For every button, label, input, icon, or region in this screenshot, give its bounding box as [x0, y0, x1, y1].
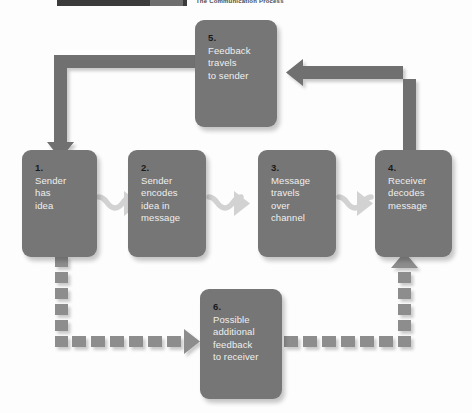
process-step-2[interactable]: 2. Sender encodes idea in message	[128, 150, 206, 257]
process-step-1[interactable]: 1. Sender has idea	[22, 150, 97, 257]
step-2-line-3: idea in	[141, 200, 206, 213]
step-1-line-2: has	[35, 187, 97, 200]
step-5-line-3: to sender	[208, 70, 277, 83]
connector-3-to-4	[339, 191, 373, 216]
process-step-3[interactable]: 3. Message travels over channel	[258, 150, 336, 257]
step-6-line-4: to receiver	[213, 351, 282, 364]
connector-6-to-4	[284, 252, 418, 347]
step-5-number: 5.	[208, 32, 277, 45]
process-step-5[interactable]: 5. Feedback travels to sender	[195, 20, 277, 127]
step-4-line-2: decodes	[388, 187, 452, 200]
step-6-line-1: Possible	[213, 314, 282, 327]
step-4-line-3: message	[388, 200, 452, 213]
step-3-line-4: channel	[271, 212, 336, 225]
process-step-4[interactable]: 4. Receiver decodes message	[375, 150, 452, 257]
step-6-number: 6.	[213, 301, 282, 314]
step-4-number: 4.	[388, 162, 452, 175]
step-3-line-1: Message	[271, 175, 336, 188]
connector-4-to-5	[286, 59, 416, 158]
step-2-line-4: message	[141, 212, 206, 225]
connector-1-to-6	[55, 256, 200, 354]
step-3-line-2: travels	[271, 187, 336, 200]
diagram-canvas: The Communication Process	[0, 0, 472, 413]
step-3-line-3: over	[271, 200, 336, 213]
step-6-line-2: additional	[213, 326, 282, 339]
step-3-number: 3.	[271, 162, 336, 175]
step-5-line-1: Feedback	[208, 45, 277, 58]
step-2-line-1: Sender	[141, 175, 206, 188]
step-5-line-2: travels	[208, 57, 277, 70]
step-1-number: 1.	[35, 162, 97, 175]
step-2-line-2: encodes	[141, 187, 206, 200]
connector-5-to-1	[47, 55, 195, 159]
step-4-line-1: Receiver	[388, 175, 452, 188]
connector-2-to-3	[209, 191, 250, 216]
step-1-line-1: Sender	[35, 175, 97, 188]
step-6-line-3: feedback	[213, 339, 282, 352]
step-1-line-3: idea	[35, 200, 97, 213]
process-step-6[interactable]: 6. Possible additional feedback to recei…	[200, 289, 282, 399]
step-2-number: 2.	[141, 162, 206, 175]
